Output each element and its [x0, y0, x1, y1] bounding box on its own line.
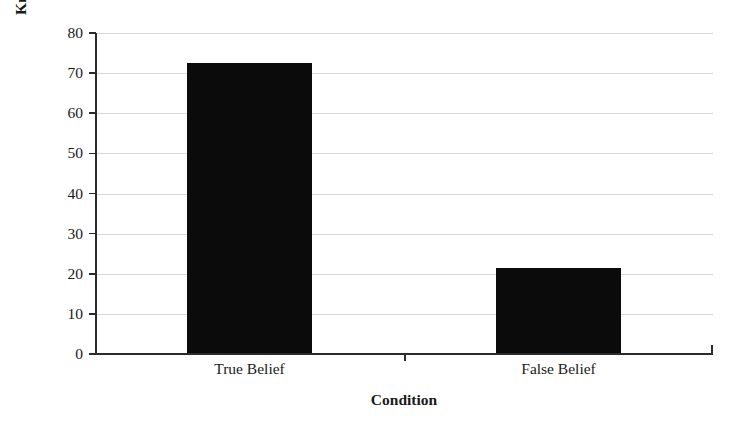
y-tick-label: 0: [43, 346, 83, 362]
plot-area: [95, 33, 713, 354]
x-axis-line: [95, 353, 713, 355]
x-category-label: True Belief: [150, 360, 350, 378]
y-axis-title: Knowledge Attribution Percentage: [8, 0, 34, 59]
y-tick-label: 20: [43, 266, 83, 282]
x-category-label: False Belief: [459, 360, 659, 378]
x-axis-title: Condition: [95, 391, 713, 409]
gridline: [95, 33, 713, 34]
y-tick-label: 40: [43, 186, 83, 202]
bar-chart-figure: Knowledge Attribution Percentage 0102030…: [0, 0, 729, 430]
y-tick-label: 80: [43, 25, 83, 41]
y-tick-label: 50: [43, 146, 83, 162]
y-tick-label: 60: [43, 106, 83, 122]
y-tick-label: 10: [43, 306, 83, 322]
y-axis-line: [95, 33, 97, 354]
y-tick-label: 30: [43, 226, 83, 242]
y-tick-label: 70: [43, 65, 83, 81]
bar: [187, 63, 312, 354]
bar: [496, 268, 621, 354]
